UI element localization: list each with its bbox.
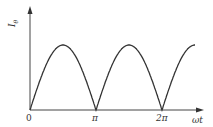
pi-label: π — [92, 114, 98, 123]
y-axis-label: Iθ — [8, 20, 19, 27]
x-axis-label: ωt — [192, 116, 203, 125]
x-axis-arrow-icon — [196, 108, 204, 113]
rectified-sine-diagram — [0, 0, 213, 127]
two-pi-label: 2π — [156, 114, 168, 123]
origin-label: 0 — [26, 114, 32, 123]
waveform-curve — [30, 45, 195, 110]
y-axis-arrow-icon — [28, 6, 33, 14]
